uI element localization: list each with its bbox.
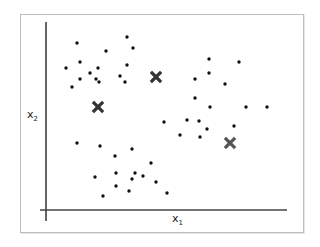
data-point xyxy=(88,71,91,74)
data-point xyxy=(185,118,188,121)
data-point xyxy=(232,124,235,127)
x-axis-label-subscript: 1 xyxy=(179,219,183,227)
data-point xyxy=(131,46,134,49)
data-point xyxy=(198,135,201,138)
data-point xyxy=(78,60,81,63)
data-point xyxy=(94,77,97,80)
data-point xyxy=(141,174,144,177)
data-point xyxy=(70,85,73,88)
data-point xyxy=(75,41,78,44)
data-point xyxy=(133,171,136,174)
data-point xyxy=(193,77,196,80)
data-point xyxy=(114,184,117,187)
centroid-markers xyxy=(94,73,234,147)
scatter-plot xyxy=(0,0,320,247)
data-point xyxy=(101,194,104,197)
data-point xyxy=(178,133,181,136)
data-point xyxy=(208,105,211,108)
data-point xyxy=(165,191,168,194)
y-axis-label: x2 xyxy=(27,108,38,123)
data-point xyxy=(154,180,157,183)
data-point xyxy=(130,177,133,180)
data-point xyxy=(125,63,128,66)
data-point xyxy=(123,80,126,83)
data-point xyxy=(197,119,200,122)
centroid-x-icon xyxy=(226,139,234,147)
data-point xyxy=(237,60,240,63)
data-point xyxy=(127,189,130,192)
data-point xyxy=(98,144,101,147)
data-point xyxy=(97,80,100,83)
y-axis-label-subscript: 2 xyxy=(34,115,38,123)
data-point xyxy=(96,66,99,69)
data-point xyxy=(207,57,210,60)
centroid-x-icon xyxy=(152,73,160,81)
data-point xyxy=(118,74,121,77)
data-points xyxy=(64,35,268,197)
data-point xyxy=(64,66,67,69)
data-point xyxy=(125,35,128,38)
data-point xyxy=(104,49,107,52)
data-point xyxy=(114,171,117,174)
data-point xyxy=(265,105,268,108)
data-point xyxy=(207,71,210,74)
data-point xyxy=(78,77,81,80)
data-point xyxy=(113,154,116,157)
data-point xyxy=(244,105,247,108)
data-point xyxy=(93,175,96,178)
data-point xyxy=(193,96,196,99)
centroid-x-icon xyxy=(94,103,102,111)
data-point xyxy=(223,82,226,85)
data-point xyxy=(75,141,78,144)
data-point xyxy=(162,120,165,123)
data-point xyxy=(149,161,152,164)
data-point xyxy=(130,147,133,150)
x-axis-label: x1 xyxy=(172,212,183,227)
data-point xyxy=(205,127,208,130)
